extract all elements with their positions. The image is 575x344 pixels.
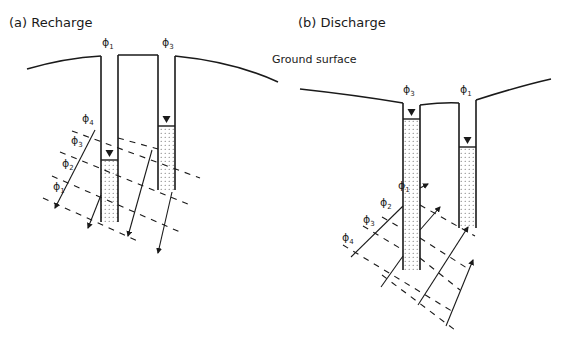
ground-surface-discharge xyxy=(300,79,551,105)
well-phi3-recharge xyxy=(158,55,175,190)
panel-title-discharge: (b) Discharge xyxy=(298,15,386,30)
well-label-phi1: ϕ1 xyxy=(102,36,114,51)
well-label-phi3: ϕ3 xyxy=(162,36,174,51)
well-phi1-recharge xyxy=(101,55,118,222)
panel-title-recharge: (a) Recharge xyxy=(9,15,92,30)
groundwater-diagram: (a) Recharge ϕ1 ϕ3 xyxy=(0,0,575,344)
well-label-phi1: ϕ1 xyxy=(460,83,472,98)
ground-surface-label: Ground surface xyxy=(272,53,357,66)
equipotential-label-phi3: ϕ3 xyxy=(363,213,375,228)
panel-recharge: (a) Recharge ϕ1 ϕ3 xyxy=(9,15,278,253)
well-phi1-discharge xyxy=(459,100,476,228)
water-level-icon xyxy=(464,137,472,144)
equipotential-label-phi4: ϕ4 xyxy=(342,231,354,246)
equipotential-label-phi1: ϕ1 xyxy=(53,180,65,195)
equipotential-label-phi3: ϕ3 xyxy=(71,134,83,149)
water-level-icon xyxy=(106,150,114,157)
equipotential-label-phi2: ϕ2 xyxy=(62,157,74,172)
water-level-icon xyxy=(408,109,416,116)
ground-surface-recharge xyxy=(27,55,278,82)
equipotential-label-phi4: ϕ4 xyxy=(82,112,94,127)
equipotential-label-phi2: ϕ2 xyxy=(380,196,392,211)
water-level-icon xyxy=(163,116,171,123)
well-label-phi3: ϕ3 xyxy=(403,83,415,98)
